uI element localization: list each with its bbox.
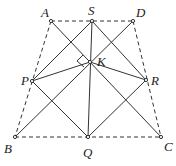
point-S [90, 19, 93, 22]
label-D: D [136, 6, 145, 19]
segment-SQ [88, 21, 92, 137]
point-D [131, 19, 134, 22]
point-Q [86, 135, 89, 138]
label-P: P [21, 74, 29, 87]
point-C [159, 135, 162, 138]
point-P [30, 79, 33, 82]
point-R [144, 78, 147, 81]
geometry-diagram: A S D K P R B Q C [0, 0, 176, 166]
label-C: C [164, 140, 173, 153]
label-A: A [41, 6, 49, 19]
label-R: R [151, 74, 159, 87]
point-K [88, 60, 91, 63]
label-Q: Q [83, 146, 92, 159]
label-S: S [88, 4, 95, 17]
segment-PQ [32, 81, 88, 137]
segment-SP [32, 21, 92, 81]
label-K: K [97, 55, 106, 68]
segment-RQ [88, 80, 146, 137]
label-B: B [4, 142, 12, 155]
point-A [49, 19, 52, 22]
point-B [13, 135, 16, 138]
